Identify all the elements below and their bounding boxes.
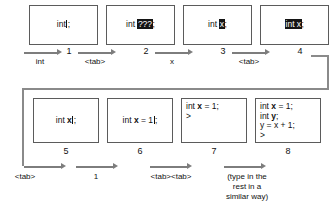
code-text: ;	[155, 115, 157, 125]
connector-segment-left-vertical	[22, 88, 24, 166]
code-text: ;	[225, 19, 227, 29]
step-box-7: int x = 1;>	[181, 98, 247, 143]
code-text: = 1;	[202, 101, 219, 111]
code-text: ;	[302, 19, 304, 29]
step-code-1: int;	[57, 20, 70, 30]
step-number-4: 4	[293, 46, 307, 56]
code-line: int x;	[56, 116, 76, 126]
transition-arrow-7	[150, 163, 192, 170]
step-number-2: 2	[139, 46, 153, 56]
transition-label-4: <tab>	[227, 57, 271, 67]
code-text: >	[260, 130, 265, 140]
code-line: int x;	[285, 20, 304, 30]
step-number-7: 7	[207, 146, 221, 156]
code-text: int	[208, 19, 219, 29]
code-text: int	[260, 101, 271, 111]
step-code-7: int x = 1;>	[182, 99, 219, 120]
step-box-1: int;	[29, 5, 98, 45]
transition-arrow-2	[78, 49, 116, 56]
step-code-3: int x;	[208, 20, 227, 30]
selected-text: int x	[285, 19, 302, 29]
code-line: int x = 1;	[123, 116, 158, 126]
code-text: ;	[74, 115, 76, 125]
code-text: ;	[68, 19, 70, 29]
transition-arrow-4	[232, 49, 270, 56]
step-box-5: int x;	[33, 98, 99, 143]
transition-arrow-8	[224, 163, 266, 170]
code-line: int;	[57, 20, 70, 30]
transition-arrow-5	[24, 163, 66, 170]
identifier-text: x	[67, 115, 72, 125]
step-number-3: 3	[216, 46, 230, 56]
code-text: int	[186, 101, 197, 111]
step-code-6: int x = 1;	[123, 116, 158, 126]
code-text: int	[123, 115, 134, 125]
figure-canvas: int; int ???; int x; int x; 1 2 3 4 int …	[0, 0, 333, 209]
transition-label-6: 1	[74, 172, 118, 182]
code-line: int ???;	[126, 20, 155, 30]
step-number-8: 8	[281, 146, 295, 156]
transition-label-5: <tab>	[3, 172, 47, 182]
step-box-3: int x;	[183, 5, 252, 45]
transition-label-1: int	[18, 57, 62, 67]
code-text: int	[126, 19, 137, 29]
code-text: int	[56, 115, 67, 125]
step-code-8: int x = 1;int y;y = x + 1;>	[256, 99, 295, 139]
selected-text: ???	[137, 19, 152, 29]
transition-label-3: x	[150, 57, 194, 67]
shell-prompt: >	[260, 131, 295, 139]
code-text: >	[186, 111, 191, 121]
shell-prompt: >	[186, 112, 219, 120]
transition-label-2: <tab>	[73, 57, 117, 67]
step-code-5: int x;	[56, 116, 76, 126]
step-box-4: int x;	[260, 5, 329, 45]
step-code-4: int x;	[285, 20, 304, 30]
code-line: y = x + 1;	[260, 121, 295, 131]
code-text: y = x + 1;	[260, 120, 295, 130]
code-text: = 1	[139, 115, 153, 125]
step-box-2: int ???;	[106, 5, 175, 45]
code-text: ;	[153, 19, 155, 29]
code-text: int	[57, 19, 66, 29]
transition-arrow-6	[76, 163, 118, 170]
transition-label-7: <tab><tab>	[137, 172, 205, 182]
step-code-2: int ???;	[126, 20, 155, 30]
code-line: int x;	[208, 20, 227, 30]
step-number-5: 5	[59, 146, 73, 156]
connector-segment-wrap-horizontal	[22, 88, 329, 90]
transition-label-8: (type in the rest in a similar way)	[208, 172, 286, 202]
step-number-6: 6	[133, 146, 147, 156]
step-box-6: int x = 1;	[107, 98, 173, 143]
transition-arrow-1	[24, 49, 62, 56]
transition-arrow-3	[155, 49, 193, 56]
step-number-1: 1	[62, 46, 76, 56]
code-text: int	[260, 111, 271, 121]
code-text: = 1;	[276, 101, 293, 111]
step-box-8: int x = 1;int y;y = x + 1;>	[255, 98, 321, 143]
connector-segment-right-vertical	[327, 55, 329, 90]
code-text: ;	[276, 111, 278, 121]
